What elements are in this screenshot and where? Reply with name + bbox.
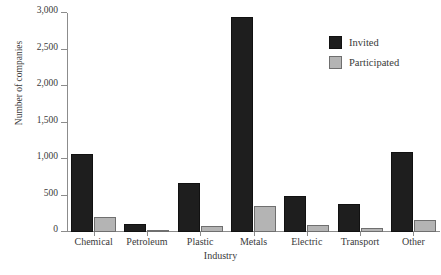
legend-swatch-icon	[329, 36, 342, 49]
x-axis-category-label: Plastic	[178, 236, 223, 247]
bar-metals-invited[interactable]	[231, 17, 253, 232]
y-axis-tick: 500	[61, 195, 67, 196]
bar-group: Electric	[284, 13, 329, 232]
bar-plastic-invited[interactable]	[178, 183, 200, 232]
y-axis-tick: 1,000	[61, 158, 67, 159]
bar-group: Plastic	[178, 13, 223, 232]
x-axis-category-label: Petroleum	[124, 236, 169, 247]
y-axis-tick-label: 500	[44, 188, 58, 198]
y-axis-tick-label: 3,000	[37, 5, 58, 15]
bar-petroleum-invited[interactable]	[124, 224, 146, 232]
y-axis-tick-label: 1,500	[37, 115, 58, 125]
bar-chemical-participated[interactable]	[94, 217, 116, 232]
bar-electric-participated[interactable]	[307, 225, 329, 232]
legend-item[interactable]: Invited	[329, 36, 399, 49]
legend-label: Participated	[349, 57, 399, 68]
y-axis-tick: 2,500	[61, 49, 67, 50]
y-axis-tick-label: 2,000	[37, 78, 58, 88]
bar-petroleum-participated[interactable]	[147, 230, 169, 232]
y-axis-tick-label: 2,500	[37, 42, 58, 52]
bar-group: Chemical	[71, 13, 116, 232]
bar-group: Metals	[231, 13, 276, 232]
legend-swatch-icon	[329, 56, 342, 69]
y-axis-line	[67, 13, 68, 232]
y-axis-tick-label: 0	[53, 224, 58, 234]
x-axis-category-label: Electric	[284, 236, 329, 247]
bar-metals-participated[interactable]	[254, 206, 276, 232]
legend-item[interactable]: Participated	[329, 56, 399, 69]
x-axis-title: Industry	[0, 250, 441, 261]
y-axis-tick: 2,000	[61, 85, 67, 86]
x-axis-category-label: Chemical	[71, 236, 116, 247]
y-axis-tick: 1,500	[61, 122, 67, 123]
bar-electric-invited[interactable]	[284, 196, 306, 233]
bar-chart-figure: Number of companies 05001,0001,5002,0002…	[0, 0, 441, 275]
x-axis-category-label: Metals	[231, 236, 276, 247]
y-axis-tick-label: 1,000	[37, 151, 58, 161]
bar-chemical-invited[interactable]	[71, 154, 93, 232]
chart-legend: InvitedParticipated	[329, 36, 399, 76]
bar-transport-invited[interactable]	[338, 204, 360, 232]
y-axis-title: Number of companies	[14, 13, 24, 153]
x-axis-category-label: Transport	[338, 236, 383, 247]
x-axis-category-label: Other	[391, 236, 436, 247]
bar-other-invited[interactable]	[391, 152, 413, 232]
y-axis-tick: 3,000	[61, 12, 67, 13]
legend-label: Invited	[349, 37, 379, 48]
chart-title	[18, 0, 318, 3]
bar-group: Petroleum	[124, 13, 169, 232]
bar-transport-participated[interactable]	[361, 228, 383, 232]
bar-plastic-participated[interactable]	[201, 226, 223, 232]
bar-other-participated[interactable]	[414, 220, 436, 232]
y-axis-tick: 0	[61, 231, 67, 232]
